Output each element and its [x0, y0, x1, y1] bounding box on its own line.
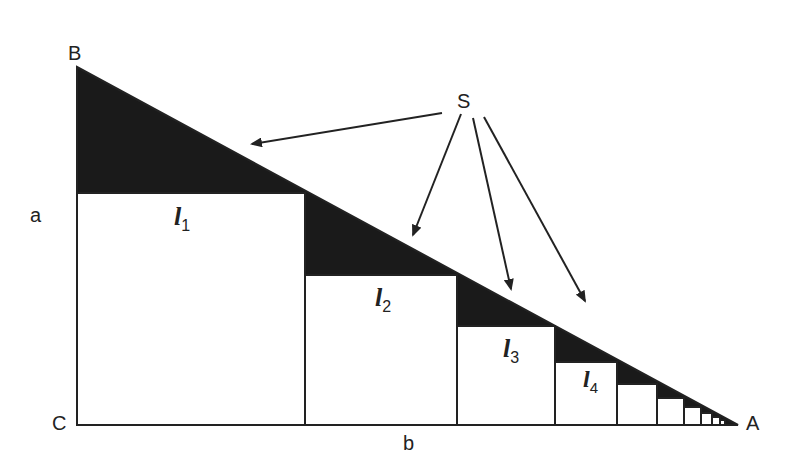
square-1 — [77, 193, 305, 425]
vertex-a-label: A — [746, 412, 760, 434]
square-5 — [617, 384, 657, 425]
arrow-1 — [252, 113, 442, 144]
shaded-region-label: S — [457, 90, 470, 112]
square-6 — [657, 398, 684, 425]
arrow-2 — [413, 114, 461, 235]
square-8 — [701, 413, 712, 425]
arrow-3 — [473, 118, 511, 289]
vertex-b-label: B — [68, 42, 81, 64]
arrow-4 — [484, 117, 585, 301]
side-a-label: a — [30, 204, 42, 226]
square-9 — [712, 417, 720, 425]
triangle-diagram: B C A a b S l1 l2 l3 l4 — [0, 0, 790, 463]
side-b-label: b — [403, 432, 414, 454]
square-7 — [684, 407, 701, 425]
vertex-c-label: C — [52, 412, 66, 434]
